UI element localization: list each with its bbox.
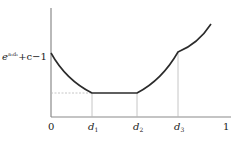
y-value-label: ea₁d₁+c−1	[2, 51, 47, 62]
x-tick-d1: d1	[88, 121, 98, 133]
x-tick-1: 1	[223, 121, 229, 132]
x-tick-d3: d3	[174, 121, 184, 133]
chart: ea₁d₁+c−1 0 d1 d2 d3 1	[0, 0, 238, 141]
piecewise-curve	[51, 24, 211, 93]
x-tick-0: 0	[48, 121, 54, 132]
x-tick-d2: d2	[133, 121, 143, 133]
